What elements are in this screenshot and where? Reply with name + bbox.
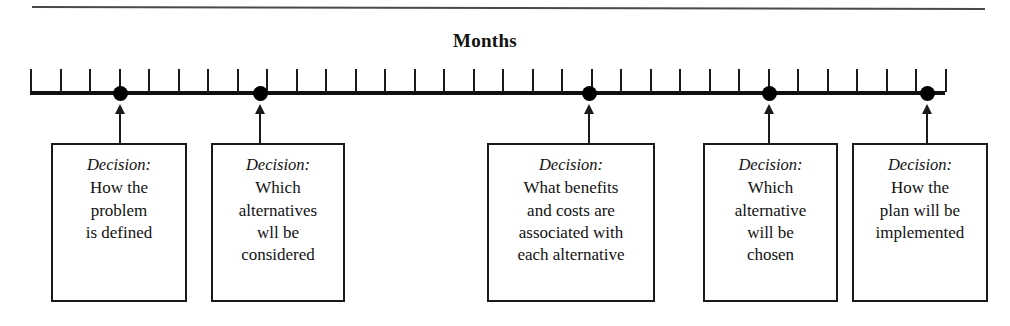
axis-tick — [414, 69, 416, 92]
decision-box-text-line: problem — [86, 200, 153, 222]
axis-tick — [620, 69, 622, 92]
decision-box-text-line: each alternative — [517, 244, 624, 266]
decision-box-text-line: associated with — [517, 222, 624, 244]
decision-box-text-line: How the — [86, 177, 153, 199]
decision-box: Decision:Whichalternativewill bechosen — [703, 143, 838, 302]
connector-arrow-icon — [764, 104, 774, 114]
axis-tick — [355, 69, 357, 92]
milestone-dot — [762, 86, 777, 101]
axis-tick — [443, 69, 445, 92]
axis-tick — [148, 69, 150, 92]
connector-arrow-icon — [115, 104, 125, 114]
decision-box-text-line: chosen — [735, 244, 807, 266]
decision-box-text-line: What benefits — [517, 177, 624, 199]
decision-box: Decision:Whichalternativeswll beconsider… — [211, 143, 345, 302]
axis-tick — [738, 69, 740, 92]
milestone-dot — [582, 86, 597, 101]
axis-tick — [768, 69, 770, 92]
axis-tick — [797, 69, 799, 92]
connector-arrow-icon — [922, 104, 932, 114]
decision-box-text-line: considered — [239, 244, 317, 266]
axis-tick — [119, 69, 121, 92]
axis-tick — [502, 69, 504, 92]
top-divider-rule — [32, 6, 985, 10]
decision-box-label: Decision: — [888, 154, 952, 175]
decision-box-text-line: implemented — [876, 222, 965, 244]
axis-tick — [178, 69, 180, 92]
axis-tick — [60, 69, 62, 92]
axis-tick — [945, 69, 947, 92]
decision-box-text-line: is defined — [86, 222, 153, 244]
axis-tick — [856, 69, 858, 92]
decision-box-text-line: Which — [735, 177, 807, 199]
axis-tick — [473, 69, 475, 92]
axis-tick — [384, 69, 386, 92]
decision-box-label: Decision: — [539, 154, 603, 175]
decision-box-text-line: plan will be — [876, 200, 965, 222]
connector-line — [259, 113, 261, 143]
axis-tick — [89, 69, 91, 92]
decision-box: Decision:What benefitsand costs areassoc… — [487, 143, 655, 302]
connector-line — [588, 113, 590, 143]
axis-tick — [650, 69, 652, 92]
axis-tick — [561, 69, 563, 92]
decision-box-label: Decision: — [738, 154, 802, 175]
axis-tick — [709, 69, 711, 92]
milestone-dot — [113, 86, 128, 101]
axis-tick — [591, 69, 593, 92]
axis-tick — [532, 69, 534, 92]
decision-box-text: Whichalternativewill bechosen — [735, 177, 807, 265]
timeline-axis-line — [30, 91, 945, 95]
decision-box-text: Whichalternativeswll beconsidered — [239, 177, 317, 265]
decision-box: Decision:How theproblemis defined — [51, 143, 187, 302]
connector-arrow-icon — [255, 104, 265, 114]
axis-tick — [266, 69, 268, 92]
decision-box-text-line: and costs are — [517, 200, 624, 222]
decision-box-text-line: will be — [735, 222, 807, 244]
timeline-figure: Months Decision:How theproblemis defined… — [0, 0, 1010, 326]
milestone-dot — [253, 86, 268, 101]
decision-box-text: How theplan will beimplemented — [876, 177, 965, 243]
decision-box-text-line: How the — [876, 177, 965, 199]
connector-line — [768, 113, 770, 143]
axis-tick — [886, 69, 888, 92]
axis-tick — [237, 69, 239, 92]
decision-box-label: Decision: — [246, 154, 310, 175]
axis-tick — [325, 69, 327, 92]
axis-tick — [827, 69, 829, 92]
decision-box-text: How theproblemis defined — [86, 177, 153, 243]
axis-tick — [30, 69, 32, 92]
axis-tick — [296, 69, 298, 92]
connector-arrow-icon — [584, 104, 594, 114]
milestone-dot — [920, 86, 935, 101]
decision-box-text: What benefitsand costs areassociated wit… — [517, 177, 624, 265]
decision-box-label: Decision: — [87, 154, 151, 175]
chart-title: Months — [0, 30, 970, 52]
axis-tick — [915, 69, 917, 92]
axis-tick — [207, 69, 209, 92]
decision-box: Decision:How theplan will beimplemented — [852, 143, 988, 302]
connector-line — [119, 113, 121, 143]
decision-box-text-line: Which — [239, 177, 317, 199]
axis-tick — [679, 69, 681, 92]
decision-box-text-line: alternatives — [239, 200, 317, 222]
decision-box-text-line: wll be — [239, 222, 317, 244]
connector-line — [926, 113, 928, 143]
decision-box-text-line: alternative — [735, 200, 807, 222]
